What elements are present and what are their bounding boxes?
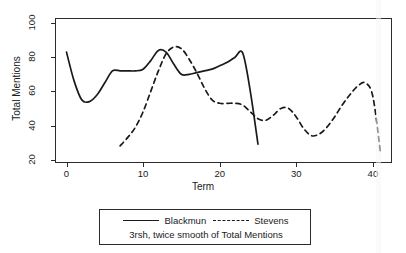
- x-tick-label: 40: [358, 168, 388, 179]
- y-tick-mark: [51, 126, 55, 127]
- y-axis-title: Total Mentions: [11, 44, 22, 134]
- y-tick-label: 80: [26, 45, 37, 69]
- y-tick-label: 60: [26, 79, 37, 103]
- plot-curves: [55, 18, 392, 163]
- x-tick-label: 30: [281, 168, 311, 179]
- legend-key-solid-icon: [123, 220, 159, 221]
- x-tick-mark: [373, 163, 374, 167]
- x-tick-mark: [220, 163, 221, 167]
- y-tick-label: 40: [26, 113, 37, 137]
- series-line-stevens: [120, 47, 380, 153]
- x-tick-mark: [67, 163, 68, 167]
- x-tick-label: 20: [205, 168, 235, 179]
- legend: Blackmun Stevens 3rsh, twice smooth of T…: [99, 209, 311, 245]
- legend-row: Blackmun Stevens: [100, 212, 312, 228]
- x-tick-label: 10: [128, 168, 158, 179]
- series-line-blackmun: [66, 50, 257, 145]
- legend-caption: 3rsh, twice smooth of Total Mentions: [100, 229, 312, 240]
- y-tick-mark: [51, 23, 55, 24]
- y-tick-mark: [51, 57, 55, 58]
- y-tick-label: 100: [26, 11, 37, 35]
- legend-entry-blackmun: Blackmun: [123, 215, 206, 226]
- x-tick-mark: [296, 163, 297, 167]
- legend-label-stevens: Stevens: [254, 215, 288, 226]
- legend-key-dashed-icon: [213, 220, 249, 221]
- x-tick-label: 0: [52, 168, 82, 179]
- x-axis-title: Term: [0, 181, 406, 192]
- legend-label-blackmun: Blackmun: [164, 215, 206, 226]
- y-tick-mark: [51, 91, 55, 92]
- x-tick-mark: [143, 163, 144, 167]
- legend-entry-stevens: Stevens: [213, 215, 288, 226]
- chart-figure: 20406080100 010203040 Term Total Mention…: [0, 0, 406, 253]
- y-tick-label: 20: [26, 147, 37, 171]
- y-tick-mark: [51, 160, 55, 161]
